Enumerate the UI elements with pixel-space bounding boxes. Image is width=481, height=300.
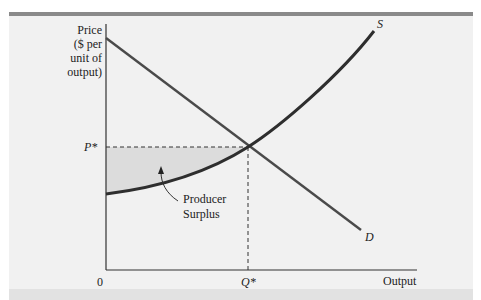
ps-label-line-2: Surplus: [183, 207, 226, 222]
supply-label: S: [377, 17, 383, 31]
y-label-line-1: Price: [50, 23, 102, 37]
producer-surplus-area: [106, 147, 248, 194]
quantity-star-label: Q*: [241, 275, 256, 289]
producer-surplus-label: Producer Surplus: [183, 192, 226, 222]
y-label-line-2: ($ per: [50, 37, 102, 51]
demand-curve: [106, 38, 361, 230]
origin-label: 0: [97, 275, 103, 289]
y-label-line-4: output): [50, 65, 102, 79]
ps-label-line-1: Producer: [183, 192, 226, 207]
y-axis-label: Price ($ per unit of output): [50, 23, 102, 79]
demand-label: D: [365, 230, 374, 244]
y-label-line-3: unit of: [50, 51, 102, 65]
price-star-label: P*: [84, 140, 97, 154]
x-axis-label: Output: [383, 274, 416, 288]
